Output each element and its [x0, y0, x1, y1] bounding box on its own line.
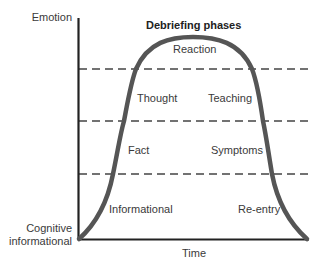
x-axis-label: Time — [182, 247, 206, 260]
diagram-title: Debriefing phases — [146, 19, 241, 32]
phase-teaching: Teaching — [208, 92, 252, 105]
phase-symptoms: Symptoms — [211, 144, 263, 157]
phase-reaction: Reaction — [173, 43, 216, 56]
y-axis-bottom-label-line1: Cognitive — [0, 222, 72, 235]
phase-informational: Informational — [109, 203, 173, 216]
phase-fact: Fact — [128, 144, 149, 157]
phase-thought: Thought — [137, 92, 177, 105]
y-axis-top-label: Emotion — [0, 11, 72, 24]
phase-re-entry: Re-entry — [238, 203, 280, 216]
y-axis-bottom-label-line2: informational — [0, 235, 72, 248]
